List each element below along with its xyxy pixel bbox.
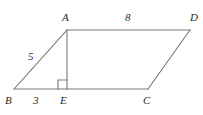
vertex-label-A: A bbox=[62, 12, 69, 23]
length-label-BE: 3 bbox=[33, 95, 39, 106]
segment-CD bbox=[148, 30, 190, 89]
length-label-AD: 8 bbox=[125, 12, 131, 23]
vertex-label-E: E bbox=[60, 95, 67, 106]
geometry-figure: A B C D E 5 3 8 bbox=[0, 0, 203, 115]
vertex-label-D: D bbox=[190, 12, 198, 23]
length-label-BA: 5 bbox=[28, 51, 34, 62]
vertex-label-B: B bbox=[5, 95, 12, 106]
right-angle-marker-at-E bbox=[58, 80, 67, 89]
vertex-label-C: C bbox=[143, 95, 150, 106]
